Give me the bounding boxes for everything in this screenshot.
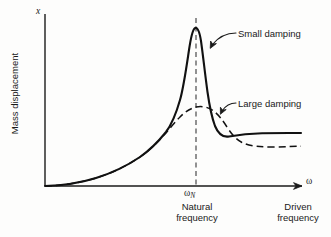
small-damping-leader-line xyxy=(212,33,236,45)
natural-frequency-caption: Natural frequency xyxy=(166,201,228,223)
large-damping-arrowhead-icon xyxy=(220,107,226,114)
resonance-curve-figure: x Mass displacement ω ωN Natural frequen… xyxy=(0,0,331,237)
natural-frequency-tick-label: ωN xyxy=(184,188,195,201)
x-axis-symbol: ω xyxy=(306,176,312,187)
small-damping-arrowhead-icon xyxy=(210,41,216,48)
y-axis-title: Mass displacement xyxy=(9,19,20,169)
y-axis-symbol: x xyxy=(36,6,40,17)
y-axis-title-wrapper: Mass displacement xyxy=(0,0,28,190)
large-damping-label: Large damping xyxy=(238,98,301,109)
omega-subscript-n: N xyxy=(190,191,195,200)
driven-frequency-caption: Driven frequency xyxy=(267,201,329,223)
small-damping-label: Small damping xyxy=(238,28,301,39)
